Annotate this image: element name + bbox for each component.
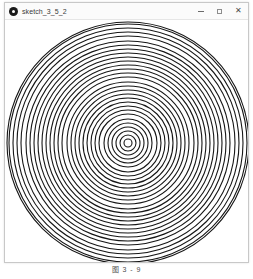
- concentric-circles-figure: [5, 20, 248, 262]
- window-titlebar[interactable]: sketch_3_5_2 ✕: [5, 3, 248, 20]
- ring: [83, 98, 173, 188]
- ring: [95, 110, 161, 176]
- maximize-icon: [217, 9, 222, 14]
- ring: [21, 36, 235, 250]
- figure-caption: 图 3 - 9: [0, 265, 253, 275]
- ring: [108, 123, 148, 163]
- close-button[interactable]: ✕: [229, 3, 248, 20]
- window-controls: ✕: [191, 3, 248, 19]
- ring: [54, 69, 202, 217]
- ring: [91, 106, 165, 180]
- ring: [9, 24, 247, 262]
- ring-group: [7, 22, 248, 262]
- ring: [79, 94, 177, 192]
- ring: [38, 53, 218, 233]
- ring: [26, 41, 230, 245]
- ring: [42, 57, 214, 229]
- ring: [13, 28, 243, 258]
- maximize-button[interactable]: [210, 3, 229, 20]
- ring: [120, 135, 136, 151]
- sketch-window: sketch_3_5_2 ✕: [4, 2, 249, 263]
- ring: [50, 65, 206, 221]
- minimize-button[interactable]: [191, 3, 210, 20]
- close-icon: ✕: [235, 7, 242, 15]
- ring: [71, 86, 185, 200]
- processing-circle-icon: [9, 7, 18, 16]
- ring: [67, 82, 189, 204]
- ring: [124, 139, 132, 147]
- ring: [30, 45, 226, 241]
- ring: [112, 127, 144, 159]
- ring: [104, 119, 152, 167]
- window-title: sketch_3_5_2: [22, 7, 67, 16]
- ring: [62, 77, 194, 209]
- minimize-icon: [198, 11, 204, 12]
- sketch-canvas[interactable]: [5, 20, 248, 262]
